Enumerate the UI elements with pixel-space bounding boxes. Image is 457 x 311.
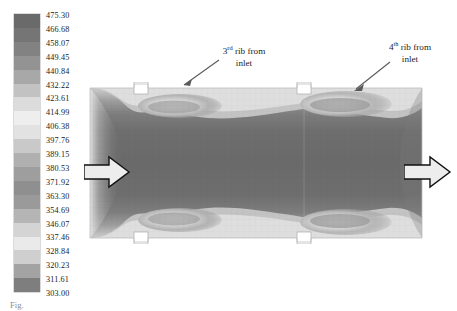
colorbar-band-1 (14, 28, 40, 42)
colorbar-band-16 (14, 237, 40, 251)
colorbar-tick-303.00: 303.00 (46, 288, 102, 300)
arrow-right-icon (404, 154, 452, 190)
colorbar-band-18 (14, 264, 40, 278)
contour-plot (88, 82, 424, 244)
arrow-right-icon (84, 154, 130, 190)
annotation-rib3-line1: 3rd rib from (223, 46, 266, 56)
contour-field (88, 82, 424, 244)
duct-interior (90, 84, 422, 242)
colorbar-band-14 (14, 209, 40, 223)
colorbar-band-7 (14, 111, 40, 125)
colorbar-band-15 (14, 223, 40, 237)
annotation-rib4-line2: inlet (402, 54, 418, 64)
outlet-flow-arrow (404, 154, 452, 190)
colorbar-band-8 (14, 125, 40, 139)
figure-caption: Fig. (10, 300, 210, 310)
colorbar-tick-320.23: 320.23 (46, 260, 102, 272)
annotation-rib4-text: rib from (398, 42, 431, 52)
colorbar-tick-475.30: 475.30 (46, 10, 102, 22)
annotation-rib3-text: rib from (233, 46, 266, 56)
colorbar-band-0 (14, 14, 40, 28)
leader-line-rib4 (348, 60, 394, 94)
colorbar-tick-466.68: 466.68 (46, 24, 102, 36)
leader-arrow-icon (348, 60, 394, 94)
colorbar-band-10 (14, 153, 40, 167)
colorbar-band-5 (14, 84, 40, 98)
colorbar-band-3 (14, 56, 40, 70)
colorbar-tick-449.45: 449.45 (46, 52, 102, 64)
colorbar-tick-328.84: 328.84 (46, 246, 102, 258)
leader-arrow-icon (176, 58, 222, 90)
colorbar-band-13 (14, 195, 40, 209)
colorbar-tick-311.61: 311.61 (46, 274, 102, 286)
inlet-flow-arrow (84, 154, 130, 190)
colorbar-band-2 (14, 42, 40, 56)
colorbar-band-11 (14, 167, 40, 181)
temperature-colorbar (14, 14, 40, 292)
colorbar-band-9 (14, 139, 40, 153)
colorbar-band-12 (14, 181, 40, 195)
colorbar-tick-458.07: 458.07 (46, 38, 102, 50)
mesh-overlay (90, 84, 422, 242)
colorbar-band-19 (14, 278, 40, 292)
annotation-rib3-line2: inlet (236, 58, 252, 68)
annotation-rib4-line1: 4th rib from (389, 42, 431, 52)
colorbar-band-4 (14, 70, 40, 84)
leader-line-rib3 (176, 58, 222, 90)
colorbar-tick-440.84: 440.84 (46, 66, 102, 78)
colorbar-band-6 (14, 97, 40, 111)
colorbar-band-17 (14, 250, 40, 264)
